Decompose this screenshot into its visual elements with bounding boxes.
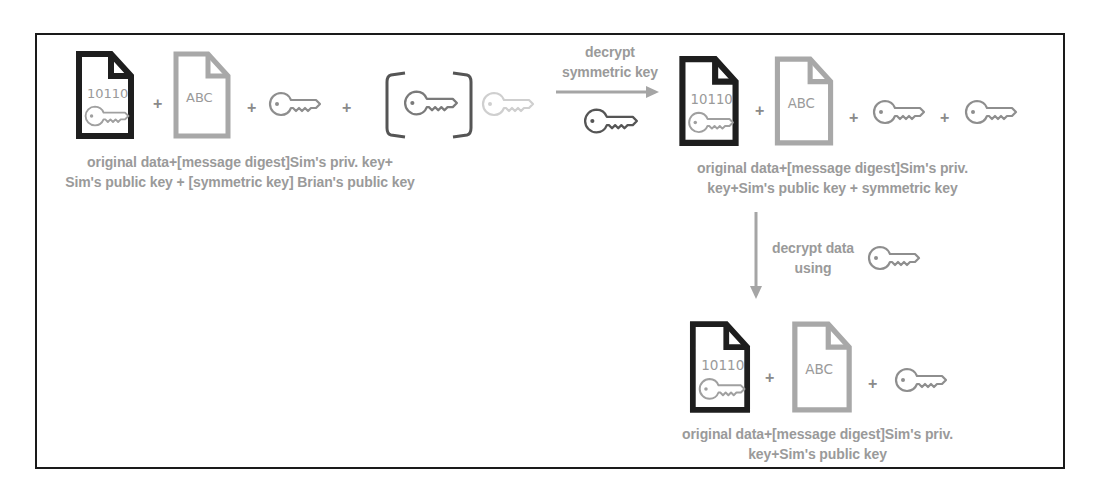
label-line: decrypt	[555, 42, 665, 62]
label-line: using	[763, 258, 863, 278]
stage2-caption: original data+[message digest]Sim's priv…	[665, 158, 1000, 198]
svg-text:ABC: ABC	[186, 90, 213, 105]
label-line: decrypt data	[763, 238, 863, 258]
plus-sign: +	[765, 370, 774, 386]
data-document-icon: 10110	[75, 50, 135, 140]
right-arrow-icon	[556, 85, 660, 99]
arrow2-label: decrypt data using	[763, 238, 863, 278]
plus-sign: +	[940, 110, 949, 126]
svg-text:10110: 10110	[691, 92, 733, 107]
sim-public-key-icon	[870, 98, 928, 126]
stage3-caption: original data+[message digest]Sim's priv…	[645, 424, 990, 464]
data-document-icon: 10110	[683, 320, 757, 414]
plus-sign: +	[342, 100, 351, 116]
label-line: symmetric key	[555, 62, 665, 82]
arrow1-label: decrypt symmetric key	[555, 42, 665, 82]
digest-document-icon: ABC	[771, 55, 837, 147]
svg-text:ABC: ABC	[805, 361, 833, 377]
caption-line: key+Sim's public key	[645, 444, 990, 464]
stage1-caption: original data+[message digest]Sim's priv…	[60, 152, 420, 192]
sim-public-key-icon	[266, 90, 324, 118]
sim-public-key-icon	[893, 366, 949, 394]
caption-line: key+Sim's public key + symmetric key	[665, 178, 1000, 198]
caption-line: original data+[message digest]Sim's priv…	[60, 152, 420, 172]
symmetric-key-icon	[962, 98, 1020, 126]
caption-line: Sim's public key + [symmetric key] Brian…	[60, 172, 420, 192]
plus-sign: +	[868, 376, 877, 392]
caption-line: original data+[message digest]Sim's priv…	[665, 158, 1000, 178]
svg-text:10110: 10110	[87, 86, 128, 101]
key-icon	[582, 106, 640, 136]
caption-line: original data+[message digest]Sim's priv…	[645, 424, 990, 444]
svg-text:ABC: ABC	[788, 96, 815, 111]
key-icon	[866, 244, 922, 272]
plus-sign: +	[755, 103, 764, 119]
data-document-icon: 10110	[676, 55, 742, 147]
digest-document-icon: ABC	[785, 320, 859, 414]
brian-public-key-icon	[480, 90, 536, 118]
down-arrow-icon	[749, 212, 763, 300]
plus-sign: +	[247, 100, 256, 116]
digest-document-icon: ABC	[172, 50, 232, 140]
svg-text:10110: 10110	[701, 357, 744, 373]
symmetric-key-icon	[402, 88, 460, 118]
plus-sign: +	[849, 110, 858, 126]
plus-sign: +	[153, 96, 162, 112]
